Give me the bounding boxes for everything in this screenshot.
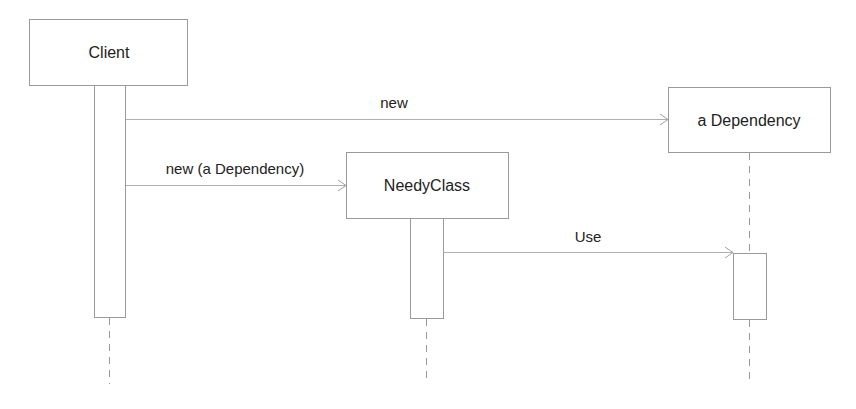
client-activation-bar — [95, 86, 126, 318]
message-new-label: new — [380, 94, 408, 111]
needyclass-label: NeedyClass — [384, 177, 470, 194]
message-new-with-dependency: new (a Dependency) — [126, 160, 346, 191]
message-use: Use — [443, 228, 733, 258]
needyclass-activation-bar — [411, 219, 444, 319]
message-new: new — [126, 94, 668, 125]
message-new-with-dependency-label: new (a Dependency) — [166, 160, 304, 177]
client-label: Client — [89, 44, 130, 61]
sequence-diagram: Client a Dependency NeedyClass new new (… — [0, 0, 856, 409]
message-use-label: Use — [575, 228, 602, 245]
participant-needyclass: NeedyClass — [347, 153, 509, 385]
dependency-label: a Dependency — [697, 112, 800, 129]
participant-dependency: a Dependency — [669, 88, 831, 385]
dependency-activation-bar — [734, 254, 767, 320]
participant-client: Client — [30, 20, 188, 385]
